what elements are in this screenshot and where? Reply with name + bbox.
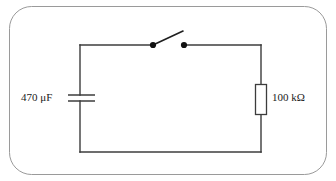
switch-terminal-right-dot[interactable] — [181, 42, 187, 48]
resistor-value-label: 100 kΩ — [272, 92, 305, 103]
circuit-diagram-figure: 470 μF 100 kΩ — [0, 0, 336, 181]
capacitor-value-label: 470 μF — [21, 92, 52, 103]
switch-terminal-left-dot[interactable] — [150, 42, 156, 48]
resistor-symbol — [256, 85, 267, 115]
